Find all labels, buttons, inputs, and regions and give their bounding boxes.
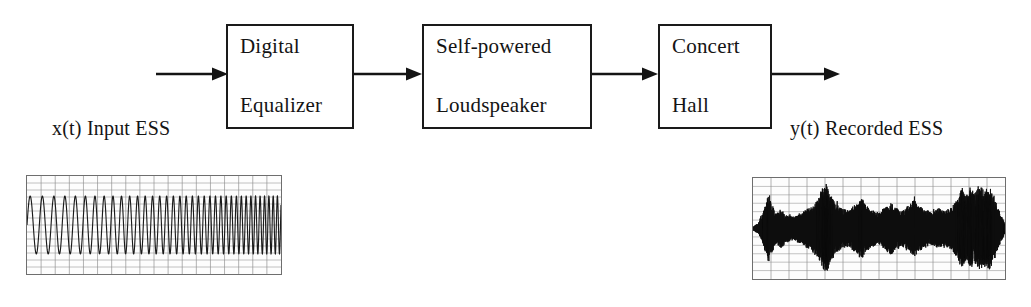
output-signal-label: y(t) Recorded ESS	[790, 117, 943, 140]
block-line-2: Equalizer	[240, 94, 352, 116]
equalizer-to-loudspeaker-arrow	[354, 67, 424, 81]
block-concert-hall: Concert Hall	[658, 24, 772, 129]
block-line-2: Loudspeaker	[436, 94, 590, 116]
block-line-1: Self-powered	[436, 35, 590, 57]
block-digital-equalizer: Digital Equalizer	[226, 24, 354, 129]
input-ess-waveform-panel	[26, 175, 282, 275]
input-arrow	[156, 67, 230, 81]
block-self-powered-loudspeaker: Self-powered Loudspeaker	[422, 24, 592, 129]
figure-canvas: Digital Equalizer Self-powered Loudspeak…	[0, 0, 1031, 307]
recorded-ess-waveform-panel	[752, 177, 1006, 280]
loudspeaker-to-hall-arrow	[592, 67, 660, 81]
block-line-1: Digital	[240, 35, 352, 57]
block-line-1: Concert	[672, 35, 770, 57]
block-line-2: Hall	[672, 94, 770, 116]
input-signal-label: x(t) Input ESS	[52, 117, 170, 140]
output-arrow	[772, 67, 842, 81]
